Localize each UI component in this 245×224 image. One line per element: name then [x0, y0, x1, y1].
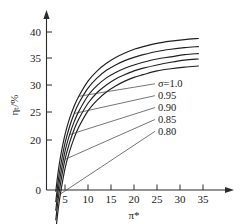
- y-tick-label-0: 0: [36, 184, 42, 196]
- leader-line-0.85: [65, 120, 155, 160]
- series-label-0.95: 0.95: [158, 90, 176, 101]
- series-label-0.85: 0.85: [158, 114, 176, 125]
- x-tick-label-5: 5: [62, 193, 68, 205]
- x-axis-arrow: [225, 187, 234, 193]
- x-axis-label: π*: [128, 209, 139, 221]
- y-tick-label-30: 30: [30, 79, 42, 91]
- x-tick-label-10: 10: [83, 193, 95, 205]
- leader-line-group: [60, 84, 154, 194]
- x-axis-ticks: [65, 185, 203, 191]
- x-tick-label-30: 30: [175, 193, 187, 205]
- efficiency-pressure-ratio-chart: 40 35 30 25 20 0 5 10 15 20 25 30 35 π* …: [0, 0, 245, 224]
- x-tick-label-25: 25: [152, 193, 164, 205]
- x-tick-labels: 5 10 15 20 25 30 35: [62, 193, 209, 205]
- y-tick-label-35: 35: [30, 52, 42, 64]
- x-tick-label-15: 15: [106, 193, 118, 205]
- series-label-0.8: 0.80: [158, 126, 176, 137]
- y-axis-label: ηₜ/%: [8, 95, 20, 116]
- series-label-0.9: 0.90: [158, 102, 176, 113]
- y-tick-labels: 40 35 30 25 20 0: [30, 26, 42, 196]
- series-annotation-group: σ=1.00.950.900.850.80: [158, 78, 183, 137]
- x-tick-label-20: 20: [129, 193, 141, 205]
- y-tick-label-20: 20: [30, 134, 42, 146]
- series-label-1: σ=1.0: [158, 78, 183, 89]
- y-axis-arrow: [43, 10, 49, 19]
- plot-axes: [43, 10, 234, 193]
- x-tick-label-35: 35: [198, 193, 210, 205]
- chart-figure: 40 35 30 25 20 0 5 10 15 20 25 30 35 π* …: [0, 0, 245, 224]
- y-tick-label-40: 40: [30, 26, 42, 38]
- y-axis-ticks: [47, 32, 53, 140]
- y-tick-label-25: 25: [30, 106, 42, 118]
- curve-sigma-0.95: [56, 47, 199, 202]
